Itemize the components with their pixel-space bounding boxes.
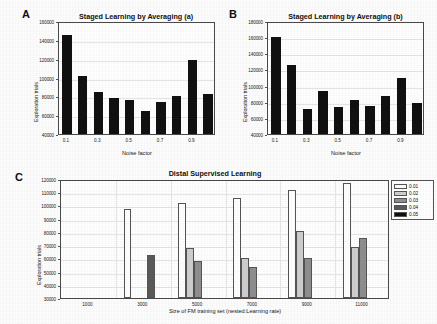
legend-swatch (394, 212, 407, 217)
legend-item: 0.01 (394, 183, 431, 190)
gridline-horizontal (61, 234, 388, 235)
y-tick-label: 90000 (30, 217, 56, 222)
bar (296, 231, 304, 298)
gridline-horizontal (59, 42, 214, 43)
x-tick-label: 0.3 (94, 138, 100, 143)
x-tick-label: 11000 (355, 302, 367, 307)
bar (303, 109, 312, 134)
y-tick-mark (56, 41, 59, 42)
y-tick-mark (58, 286, 61, 287)
bar (241, 258, 249, 298)
panel-a-title: Staged Learning by Averaging (a) (56, 12, 216, 21)
y-tick-mark (265, 135, 268, 136)
y-tick-label: 140000 (28, 38, 54, 43)
legend-label: 0.05 (409, 212, 418, 217)
bar (318, 91, 327, 134)
bar (350, 100, 359, 134)
bar (188, 60, 197, 134)
gridline-horizontal (61, 247, 388, 248)
gridline-horizontal (61, 207, 388, 208)
legend-label: 0.04 (409, 205, 418, 210)
panel-a-plot-area (58, 22, 215, 135)
bar (194, 261, 202, 298)
panel-b-xlabel: Noise factor (331, 150, 361, 156)
y-tick-label: 60000 (28, 114, 54, 119)
x-tick-label: 9000 (302, 302, 312, 307)
legend-label: 0.01 (409, 184, 418, 189)
y-tick-label: 40000 (30, 283, 56, 288)
bar (381, 96, 390, 134)
y-tick-mark (56, 135, 59, 136)
y-tick-mark (56, 60, 59, 61)
panel-c-plot-area (60, 180, 389, 299)
legend-swatch (394, 184, 407, 189)
y-tick-label: 40000 (237, 133, 263, 138)
y-tick-mark (58, 246, 61, 247)
legend-item: 0.02 (394, 190, 431, 197)
x-tick-label: 0.3 (303, 138, 309, 143)
panel-b-letter: B (229, 8, 237, 20)
bar (141, 111, 150, 134)
legend-swatch (394, 205, 407, 210)
y-tick-mark (265, 70, 268, 71)
bar (147, 255, 155, 298)
y-tick-label: 100000 (237, 84, 263, 89)
y-tick-label: 60000 (30, 257, 56, 262)
bar (412, 103, 421, 134)
y-tick-mark (265, 22, 268, 23)
panel-c-letter: C (15, 171, 23, 183)
x-tick-label: 3000 (137, 302, 147, 307)
bar (203, 94, 212, 134)
panel-c-legend: 0.010.020.030.040.05 (391, 180, 434, 220)
y-tick-mark (58, 180, 61, 181)
gridline-vertical (171, 181, 172, 298)
y-tick-mark (265, 38, 268, 39)
x-tick-label: 0.7 (157, 138, 163, 143)
y-tick-label: 140000 (237, 52, 263, 57)
bar (186, 248, 194, 298)
x-tick-label: 5000 (192, 302, 202, 307)
bar (288, 190, 296, 298)
gridline-vertical (335, 181, 336, 298)
bar (172, 96, 181, 134)
gridline-horizontal (61, 221, 388, 222)
gridline-horizontal (268, 39, 423, 40)
x-tick-label: 0.1 (272, 138, 278, 143)
bar (125, 100, 134, 134)
y-tick-label: 160000 (28, 20, 54, 25)
y-tick-label: 60000 (237, 116, 263, 121)
panel-a: A Staged Learning by Averaging (a) Explo… (0, 0, 218, 163)
x-tick-label: 7000 (247, 302, 257, 307)
y-tick-label: 70000 (30, 244, 56, 249)
bar (397, 78, 406, 135)
bar (109, 98, 118, 134)
bar (334, 107, 343, 134)
y-tick-label: 100000 (28, 76, 54, 81)
legend-swatch (394, 191, 407, 196)
y-tick-mark (56, 22, 59, 23)
y-tick-mark (56, 116, 59, 117)
y-tick-mark (58, 193, 61, 194)
y-tick-label: 120000 (28, 57, 54, 62)
gridline-vertical (116, 181, 117, 298)
x-tick-label: 0.9 (397, 138, 403, 143)
bar (365, 106, 374, 134)
y-tick-mark (58, 206, 61, 207)
x-tick-label: 0.9 (188, 138, 194, 143)
y-tick-mark (58, 220, 61, 221)
y-tick-label: 120000 (30, 178, 56, 183)
panel-b-title: Staged Learning by Averaging (b) (264, 12, 427, 21)
y-tick-label: 100000 (30, 204, 56, 209)
panel-c-xlabel: Size of FM training set (nested:Learning… (169, 308, 281, 314)
y-tick-label: 120000 (237, 68, 263, 73)
bar (287, 65, 296, 134)
y-tick-label: 30000 (30, 297, 56, 302)
panel-b: B Staged Learning by Averaging (b) Explo… (218, 0, 437, 163)
legend-label: 0.03 (409, 198, 418, 203)
y-tick-label: 80000 (30, 230, 56, 235)
panel-b-plot-area (267, 22, 424, 135)
y-tick-label: 180000 (237, 20, 263, 25)
panel-c-title: Distal Supervised Learning (100, 169, 330, 178)
y-tick-mark (58, 259, 61, 260)
bar (124, 209, 132, 298)
